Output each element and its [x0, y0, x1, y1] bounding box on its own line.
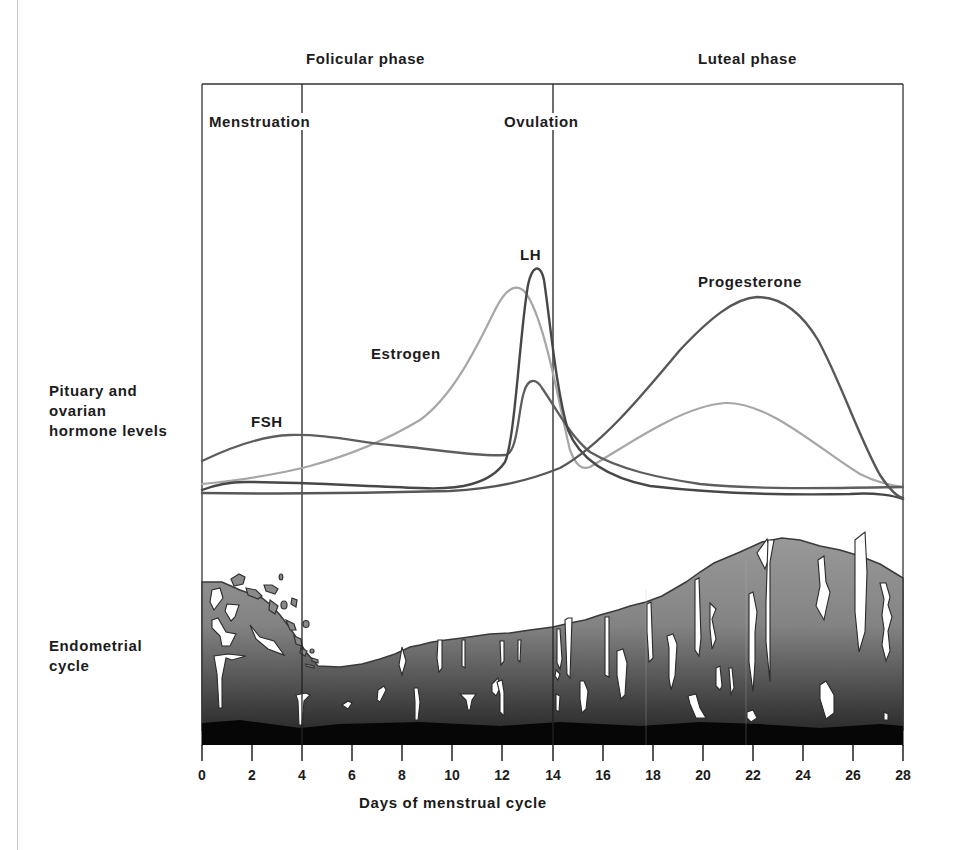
x-axis-title: Days of menstrual cycle [0, 794, 930, 811]
tick-label: 16 [588, 767, 618, 783]
tick-label: 2 [237, 767, 267, 783]
tick-label: 26 [838, 767, 868, 783]
hormone-panel-label-line2: ovarian [49, 401, 167, 421]
endometrial-label-line1: Endometrial [49, 636, 142, 656]
menstruation-label: Menstruation [208, 113, 311, 130]
tick-label: 8 [387, 767, 417, 783]
tick-label: 28 [888, 767, 918, 783]
tick-label: 6 [337, 767, 367, 783]
hormone-panel-label: Pituary and ovarian hormone levels [49, 381, 167, 441]
tick-label: 12 [487, 767, 517, 783]
estrogen-label: Estrogen [371, 345, 441, 362]
tick-label: 22 [738, 767, 768, 783]
progesterone-label: Progesterone [698, 273, 802, 290]
ovulation-label: Ovulation [503, 113, 580, 130]
endometrial-label-line2: cycle [49, 656, 142, 676]
lh-label: LH [520, 246, 541, 263]
fsh-label: FSH [251, 413, 283, 430]
tick-label: 24 [788, 767, 818, 783]
x-axis-ticks [202, 745, 903, 761]
endometrial-panel-label: Endometrial cycle [49, 636, 142, 676]
tick-label: 18 [638, 767, 668, 783]
hormone-panel-label-line3: hormone levels [49, 421, 167, 441]
tick-label: 10 [437, 767, 467, 783]
hormone-panel-label-line1: Pituary and [49, 381, 167, 401]
tick-label: 20 [688, 767, 718, 783]
tick-label: 14 [538, 767, 568, 783]
tick-label: 4 [287, 767, 317, 783]
tick-label: 0 [187, 767, 217, 783]
